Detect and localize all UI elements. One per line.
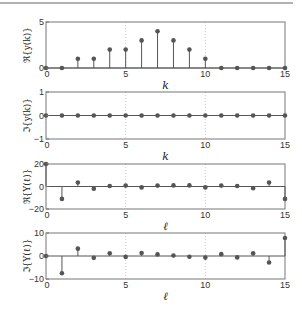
stem-marker	[92, 186, 97, 191]
x-tick-label: 15	[280, 210, 290, 220]
x-tick-label: 15	[280, 280, 290, 290]
x-axis-label: k	[162, 79, 169, 92]
y-tick-label: 0	[39, 111, 44, 121]
subplot-3: −20020051015ℓℜ{Y(ℓ)}	[22, 159, 290, 233]
stem-marker	[219, 113, 224, 118]
x-tick-label: 10	[200, 280, 210, 290]
stem-marker	[123, 113, 128, 118]
stem-marker	[251, 66, 256, 71]
x-tick-label: 0	[44, 140, 49, 150]
stem-marker	[187, 113, 192, 118]
y-tick-label: −1	[34, 134, 44, 144]
x-tick-label: 5	[123, 280, 128, 290]
subplot-1: 05051015kℜ{y(k)}	[22, 17, 290, 92]
x-tick-label: 10	[200, 140, 210, 150]
x-tick-label: 10	[200, 210, 210, 220]
x-tick-label: 0	[44, 210, 49, 220]
stem-marker	[60, 113, 65, 118]
stem-marker	[60, 271, 65, 276]
stem-marker	[187, 183, 192, 188]
stem-marker	[219, 66, 224, 71]
stem-marker	[139, 251, 144, 256]
stem-marker	[171, 183, 176, 188]
y-tick-label: −10	[29, 274, 44, 284]
subplot-4: −10010051015ℓℑ{Y(ℓ)}	[22, 228, 290, 303]
y-axis-label: ℑ{y(k)}	[22, 98, 32, 133]
stem-marker	[76, 57, 81, 62]
stem-marker	[171, 253, 176, 258]
stem-marker	[203, 185, 208, 190]
stem-marker	[139, 38, 144, 43]
stem-marker	[139, 113, 144, 118]
stem-marker	[171, 113, 176, 118]
x-tick-label: 15	[280, 140, 290, 150]
figure: 05051015kℜ{y(k)}−101051015kℑ{y(k)}−20020…	[0, 0, 302, 314]
stem-marker	[235, 255, 240, 260]
stem-marker	[171, 38, 176, 43]
stem-marker	[187, 254, 192, 259]
stem-marker	[283, 197, 288, 202]
stem-marker	[76, 113, 81, 118]
stem-marker	[235, 66, 240, 71]
stem-marker	[283, 236, 288, 241]
y-axis-label: ℜ{Y(ℓ)}	[22, 169, 32, 205]
x-tick-label: 0	[44, 280, 49, 290]
stem-marker	[203, 255, 208, 260]
stem-marker	[76, 180, 81, 185]
x-tick-label: 5	[123, 69, 128, 79]
stem-marker	[235, 113, 240, 118]
stem-marker	[123, 255, 128, 260]
y-tick-label: 0	[39, 251, 44, 261]
y-tick-label: 20	[34, 159, 44, 169]
y-tick-label: 10	[34, 228, 44, 238]
y-tick-label: −20	[29, 204, 44, 214]
x-tick-label: 5	[123, 210, 128, 220]
subplot-2: −101051015kℑ{y(k)}	[22, 87, 290, 163]
axes-box	[46, 22, 285, 68]
stem-marker	[92, 57, 97, 62]
stem-marker	[219, 183, 224, 188]
stem-marker	[203, 57, 208, 62]
stem-marker	[123, 47, 128, 52]
stem-marker	[76, 246, 81, 251]
stem-marker	[267, 113, 272, 118]
y-tick-label: 0	[39, 182, 44, 192]
stem-marker	[235, 184, 240, 189]
stem-marker	[139, 185, 144, 190]
x-tick-label: 0	[44, 69, 49, 79]
stem-marker	[251, 113, 256, 118]
stem-marker	[123, 183, 128, 188]
x-tick-label: 15	[280, 69, 290, 79]
stem-marker	[107, 184, 112, 189]
stem-marker	[251, 186, 256, 191]
x-tick-label: 10	[200, 69, 210, 79]
stem-marker	[267, 180, 272, 185]
stem-marker	[92, 113, 97, 118]
stem-marker	[155, 29, 160, 34]
subplots: 05051015kℜ{y(k)}−101051015kℑ{y(k)}−20020…	[22, 17, 290, 303]
y-tick-label: 1	[39, 87, 44, 97]
stem-marker	[155, 183, 160, 188]
stem-marker	[107, 113, 112, 118]
stem-marker	[60, 197, 65, 202]
stem-marker	[267, 66, 272, 71]
stem-marker	[187, 47, 192, 52]
stem-marker	[60, 66, 65, 71]
stem-marker	[251, 251, 256, 256]
stem-marker	[283, 113, 288, 118]
y-axis-label: ℑ{Y(ℓ)}	[22, 239, 32, 274]
x-axis-label: ℓ	[163, 290, 168, 303]
y-tick-label: 5	[39, 17, 44, 27]
x-axis-label: ℓ	[163, 220, 168, 233]
stem-marker	[92, 256, 97, 261]
stem-marker	[203, 113, 208, 118]
x-tick-label: 5	[123, 140, 128, 150]
stem-marker	[107, 251, 112, 256]
stem-marker	[155, 252, 160, 257]
x-axis-label: k	[162, 150, 169, 163]
stem-marker	[219, 252, 224, 257]
stem-marker	[267, 260, 272, 265]
stem-marker	[155, 113, 160, 118]
stem-marker	[107, 47, 112, 52]
y-axis-label: ℜ{y(k)}	[22, 27, 32, 63]
